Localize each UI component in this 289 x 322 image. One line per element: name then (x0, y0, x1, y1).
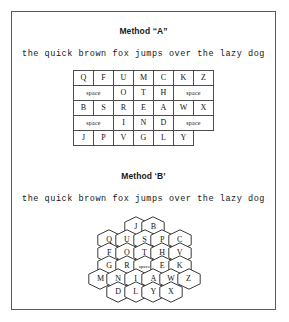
grid-key-d[interactable]: D (154, 116, 174, 131)
hex-key-label: R (124, 262, 129, 270)
grid-key-h[interactable]: H (154, 86, 174, 101)
hex-key-label: I (134, 275, 137, 283)
grid-key-space[interactable]: space (74, 116, 114, 131)
grid-key-u[interactable]: U (114, 71, 134, 86)
method-a-keyboard: QFUMCKZspaceOTHspaceBSREAWXspaceINDspace… (12, 70, 275, 146)
hex-row: QUSPC (12, 229, 277, 242)
hex-row: JB (12, 216, 277, 229)
hex-key-label: D (115, 288, 121, 296)
hex-key-label: Z (186, 275, 191, 283)
grid-key-b[interactable]: B (74, 101, 94, 116)
hex-key-label: U (124, 236, 130, 244)
grid-key-q[interactable]: Q (74, 71, 94, 86)
grid-key-x[interactable]: X (194, 101, 214, 116)
hex-key-label: F (107, 249, 111, 257)
grid-key-g[interactable]: G (134, 131, 154, 146)
hex-key-label: space (139, 264, 151, 269)
hex-key-label: E (160, 262, 165, 270)
grid-key-i[interactable]: I (114, 116, 134, 131)
method-b-sample-text: the quick brown fox jumps over the lazy … (12, 194, 275, 204)
hex-key-label: Y (150, 288, 156, 296)
grid-key-s[interactable]: S (94, 101, 114, 116)
hex-key-label: H (159, 249, 165, 257)
grid-key-e[interactable]: E (134, 101, 154, 116)
method-b-keyboard: JBQUSPCFOTHVGRspaceEKMNIAWZDLYX (12, 216, 277, 300)
hex-key-label: J (134, 223, 137, 231)
grid-key-t[interactable]: T (134, 86, 154, 101)
grid-key-m[interactable]: M (134, 71, 154, 86)
grid-key-f[interactable]: F (94, 71, 114, 86)
figure-frame: Method “A” the quick brown fox jumps ove… (11, 11, 276, 310)
method-a-title: Method “A” (12, 26, 275, 36)
hex-key-label: V (177, 249, 183, 257)
hex-key-label: A (150, 275, 156, 283)
hex-key-label: C (177, 236, 182, 244)
hex-key-label: L (133, 288, 138, 296)
hex-key-label: N (115, 275, 121, 283)
grid-key-w[interactable]: W (174, 101, 194, 116)
grid-key-space[interactable]: space (74, 86, 114, 101)
hex-key-x[interactable]: X (159, 281, 183, 303)
grid-key-j[interactable]: J (74, 131, 94, 146)
grid-key-p[interactable]: P (94, 131, 114, 146)
hex-key-label: M (97, 275, 104, 283)
method-a-sample-text: the quick brown fox jumps over the lazy … (12, 49, 275, 59)
hex-key-label: O (124, 249, 130, 257)
grid-key-z[interactable]: Z (194, 71, 214, 86)
hex-key-label: G (106, 262, 112, 270)
key-row: spaceINDspace (74, 116, 214, 131)
key-row: spaceOTHspace (74, 86, 214, 101)
hex-key-label: W (167, 275, 175, 283)
key-row: JPVGLY (74, 131, 214, 146)
hex-key-label: B (151, 223, 156, 231)
hex-row: MNIAWZ (12, 268, 277, 281)
key-row: QFUMCKZ (74, 71, 214, 86)
grid-key-a[interactable]: A (154, 101, 174, 116)
grid-key-space[interactable]: space (174, 86, 214, 101)
grid-key-l[interactable]: L (154, 131, 174, 146)
hex-row: DLYX (12, 281, 277, 294)
method-b-title: Method ‘B’ (12, 171, 275, 181)
rect-key-grid: QFUMCKZspaceOTHspaceBSREAWXspaceINDspace… (73, 70, 214, 146)
hex-key-label: Q (106, 236, 112, 244)
hex-key-label: K (177, 262, 183, 270)
hex-key-label: X (168, 288, 174, 296)
grid-key-y[interactable]: Y (174, 131, 194, 146)
grid-key-r[interactable]: R (114, 101, 134, 116)
grid-key-k[interactable]: K (174, 71, 194, 86)
grid-key-space[interactable]: space (174, 116, 214, 131)
grid-key-n[interactable]: N (134, 116, 154, 131)
grid-key-c[interactable]: C (154, 71, 174, 86)
hex-key-label: P (160, 236, 164, 244)
key-row: BSREAWX (74, 101, 214, 116)
grid-cell-empty (194, 131, 214, 146)
hex-key-label: T (142, 249, 147, 257)
grid-key-v[interactable]: V (114, 131, 134, 146)
hex-key-label: S (142, 236, 146, 244)
grid-key-o[interactable]: O (114, 86, 134, 101)
